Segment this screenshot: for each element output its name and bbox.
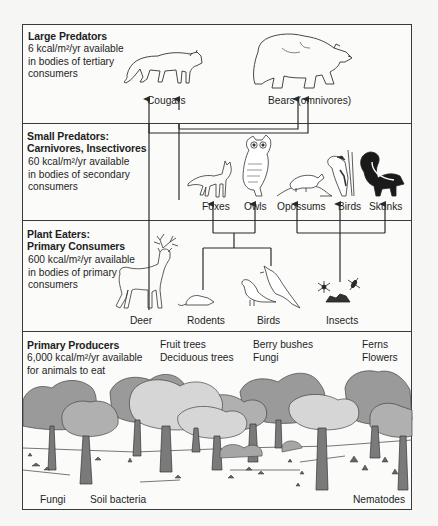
- label-soil-bacteria: Soil bacteria: [90, 494, 146, 506]
- insect-icon: [318, 278, 360, 302]
- arrow-owls-bears: [179, 99, 298, 129]
- label-fungi: Fungi: [40, 494, 65, 506]
- arrow-foxes-bears: [149, 99, 308, 133]
- forest-illustration: [23, 371, 412, 490]
- diagram-drawing: [0, 0, 438, 526]
- songbird-icon: [242, 266, 300, 308]
- fox-icon: [188, 161, 231, 197]
- bear-icon: [254, 34, 352, 88]
- skunk-icon: [361, 152, 404, 196]
- food-web-arrows: [22, 99, 385, 310]
- woodpecker-icon: [328, 150, 354, 196]
- label-nematodes: Nematodes: [353, 494, 405, 506]
- rodent-icon: [178, 295, 214, 305]
- cougar-icon: [124, 50, 202, 83]
- owl-icon: [243, 135, 271, 196]
- opossum-icon: [277, 174, 332, 196]
- deer-icon: [116, 234, 178, 308]
